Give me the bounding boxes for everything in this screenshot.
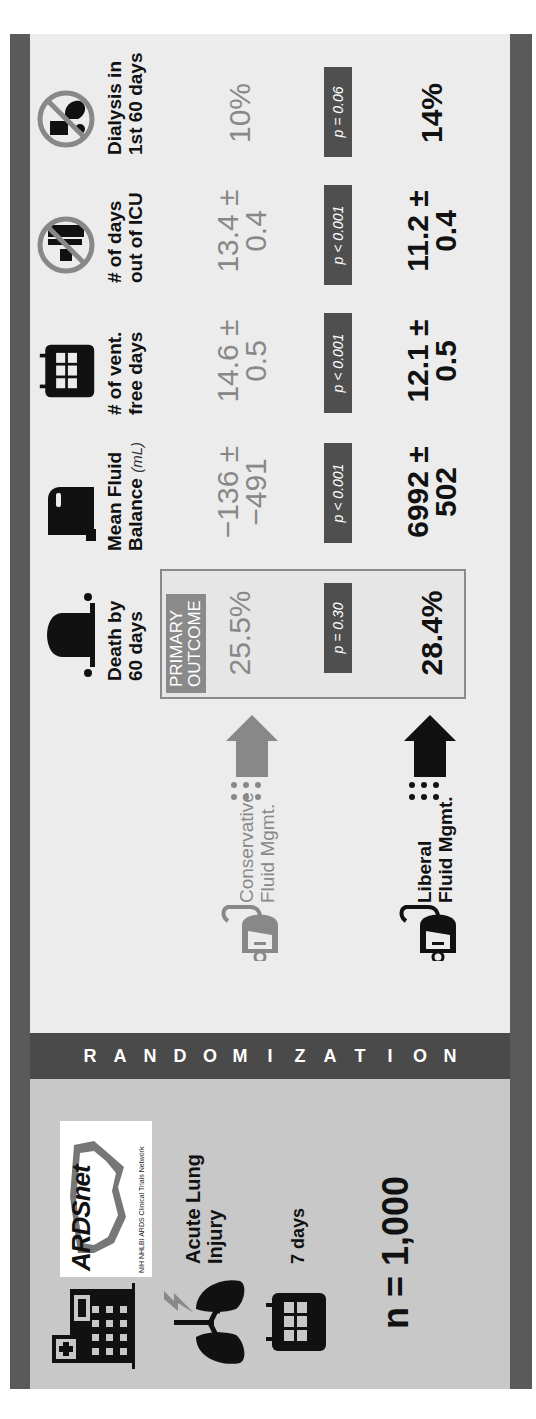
strip-letter: A bbox=[320, 1041, 340, 1071]
header-line-1: Death by bbox=[104, 601, 125, 681]
primary-tag-line-2: OUTCOME bbox=[186, 600, 204, 687]
header-line-2: out of ICU bbox=[125, 192, 146, 283]
value-main: 11.2 ± bbox=[404, 171, 432, 291]
dots-icon bbox=[404, 775, 460, 805]
visual-abstract: ARDSnet NIH NHLBI ARDS Clinical Trials N… bbox=[10, 34, 532, 1389]
strip-letter: O bbox=[200, 1041, 220, 1071]
p-value-badge-vent-free: p < 0.001 bbox=[324, 313, 352, 413]
liberal-value-death: 28.4% bbox=[418, 573, 446, 693]
outcome-header-vent-free: # of vent. free days bbox=[104, 332, 146, 415]
value-main: −136 ± bbox=[214, 427, 242, 557]
conservative-value-vent-free: 14.6 ± 0.5 bbox=[214, 301, 270, 421]
lungs-icon bbox=[160, 1271, 250, 1371]
strip-letter: O bbox=[410, 1041, 430, 1071]
header-unit: (mL) bbox=[128, 442, 145, 473]
condition-line-2: Injury bbox=[204, 1154, 226, 1264]
conservative-value-fluid-balance: −136 ± −491 bbox=[214, 427, 270, 557]
liberal-value-icu-free: 11.2 ± 0.4 bbox=[404, 171, 460, 291]
duration-label: 7 days bbox=[288, 1208, 309, 1264]
group-label-conservative: Conservative Fluid Mgmt. bbox=[236, 792, 278, 903]
conservative-value-dialysis: 10% bbox=[226, 63, 254, 163]
value-sd: 0.5 bbox=[432, 301, 460, 421]
outcomes-panel: Conservative Fluid Mgmt. Liberal Fluid M… bbox=[30, 34, 510, 1033]
value-main: 13.4 ± bbox=[214, 171, 242, 291]
group-line-2: Fluid Mgmt. bbox=[257, 792, 278, 903]
arrow-right-liberal-icon bbox=[404, 713, 456, 777]
conservative-value-icu-free: 13.4 ± 0.4 bbox=[214, 171, 270, 291]
value-sd: 0.4 bbox=[432, 171, 460, 291]
header-line-1: # of vent. bbox=[104, 332, 125, 415]
group-label-liberal: Liberal Fluid Mgmt. bbox=[414, 796, 456, 903]
liberal-value-vent-free: 12.1 ± 0.5 bbox=[404, 301, 460, 421]
outcome-header-fluid-balance: Mean Fluid Balance (mL) bbox=[104, 442, 147, 551]
value-sd: −491 bbox=[242, 427, 270, 557]
p-value-badge-fluid-balance: p < 0.001 bbox=[324, 443, 352, 543]
no-dialysis-icon bbox=[36, 89, 96, 149]
group-line-1: Liberal bbox=[414, 796, 435, 903]
arrow-right-conservative-icon bbox=[226, 713, 278, 777]
strip-letter: N bbox=[140, 1041, 160, 1071]
value-sd: 502 bbox=[432, 427, 460, 557]
p-value-badge-dialysis: p = 0.06 bbox=[324, 67, 352, 157]
ardsnet-wordmark: ARDSnet bbox=[66, 1165, 97, 1271]
strip-letter: T bbox=[350, 1041, 370, 1071]
calendar-icon bbox=[38, 341, 96, 401]
dots-icon bbox=[226, 775, 282, 805]
liberal-value-fluid-balance: 6992 ± 502 bbox=[404, 427, 460, 557]
condition-line-1: Acute Lung bbox=[182, 1154, 204, 1264]
header-line-1: # of days bbox=[104, 192, 125, 283]
value-main: 6992 ± bbox=[404, 427, 432, 557]
ardsnet-logo: ARDSnet NIH NHLBI ARDS Clinical Trials N… bbox=[60, 1121, 152, 1277]
strip-letter: D bbox=[170, 1041, 190, 1071]
conservative-value-death: 25.5% bbox=[226, 573, 254, 693]
strip-letter: R bbox=[80, 1041, 100, 1071]
p-value-badge-icu-free: p < 0.001 bbox=[324, 185, 352, 285]
strip-letter: A bbox=[110, 1041, 130, 1071]
header-line-2: 1st 60 days bbox=[125, 53, 146, 155]
sample-size: n = 1,000 bbox=[375, 1176, 417, 1329]
header-line-1: Mean Fluid bbox=[104, 442, 125, 551]
primary-tag-line-1: PRIMARY bbox=[168, 600, 186, 687]
randomization-strip: R A N D O M I Z A T I O N bbox=[30, 1033, 510, 1079]
strip-letter: I bbox=[380, 1041, 400, 1071]
strip-letter: Z bbox=[290, 1041, 310, 1071]
iv-bag-icon bbox=[398, 895, 460, 961]
header-line-1: Dialysis in bbox=[104, 53, 125, 155]
outcome-header-death: Death by 60 days bbox=[104, 601, 146, 681]
fluid-container-icon bbox=[38, 477, 100, 549]
header-line-2: Balance bbox=[125, 478, 146, 551]
outcome-header-dialysis: Dialysis in 1st 60 days bbox=[104, 53, 146, 155]
no-icu-icon bbox=[36, 215, 96, 275]
header-line-2: free days bbox=[125, 332, 146, 415]
value-main: 12.1 ± bbox=[404, 301, 432, 421]
value-sd: 0.5 bbox=[242, 301, 270, 421]
ardsnet-subtitle: NIH NHLBI ARDS Clinical Trials Network bbox=[138, 1147, 145, 1273]
value-sd: 0.4 bbox=[242, 171, 270, 291]
tombstone-icon bbox=[38, 589, 98, 681]
p-value-badge-death: p = 0.30 bbox=[324, 583, 352, 673]
strip-letter: N bbox=[440, 1041, 460, 1071]
group-line-1: Conservative bbox=[236, 792, 257, 903]
primary-outcome-tag: PRIMARY OUTCOME bbox=[166, 594, 206, 693]
iv-bag-icon bbox=[220, 895, 282, 961]
value-main: 14.6 ± bbox=[214, 301, 242, 421]
strip-letter: I bbox=[260, 1041, 280, 1071]
study-population-panel: ARDSnet NIH NHLBI ARDS Clinical Trials N… bbox=[30, 1079, 510, 1389]
hospital-icon bbox=[48, 1281, 138, 1371]
liberal-value-dialysis: 14% bbox=[418, 63, 446, 163]
outcome-header-icu-free: # of days out of ICU bbox=[104, 192, 146, 283]
strip-letter: M bbox=[230, 1041, 250, 1071]
header-line-2: 60 days bbox=[125, 601, 146, 681]
group-line-2: Fluid Mgmt. bbox=[435, 796, 456, 903]
condition-label: Acute Lung Injury bbox=[182, 1154, 226, 1264]
calendar-icon bbox=[264, 1289, 328, 1355]
